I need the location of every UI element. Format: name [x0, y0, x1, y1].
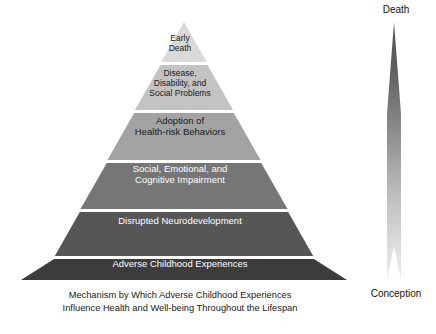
pyramid-tier-shape-4	[55, 212, 313, 256]
pyramid-graphic: Early Death Disease, Disability, and Soc…	[0, 0, 360, 290]
figure-caption-line-1: Mechanism by Which Adverse Childhood Exp…	[0, 289, 360, 302]
lifespan-arrow-bottom-label: Conception	[356, 288, 436, 299]
ace-pyramid-figure: Early Death Disease, Disability, and Soc…	[0, 0, 436, 334]
pyramid-tier-shape-5	[21, 259, 347, 280]
pyramid-tier-shape-0	[161, 22, 206, 62]
figure-caption-line-2: Influence Health and Well-being Througho…	[0, 302, 360, 315]
lifespan-arrow: Death Conception	[356, 0, 436, 334]
pyramid-tier-shape-3	[81, 163, 288, 209]
lifespan-arrow-shape	[387, 22, 401, 280]
pyramid-shapes	[0, 0, 360, 290]
pyramid-tier-shape-2	[108, 113, 261, 160]
lifespan-arrow-icon	[356, 18, 436, 286]
lifespan-arrow-top-label: Death	[356, 4, 436, 15]
pyramid-tier-shape-1	[135, 65, 233, 110]
figure-caption: Mechanism by Which Adverse Childhood Exp…	[0, 289, 360, 315]
